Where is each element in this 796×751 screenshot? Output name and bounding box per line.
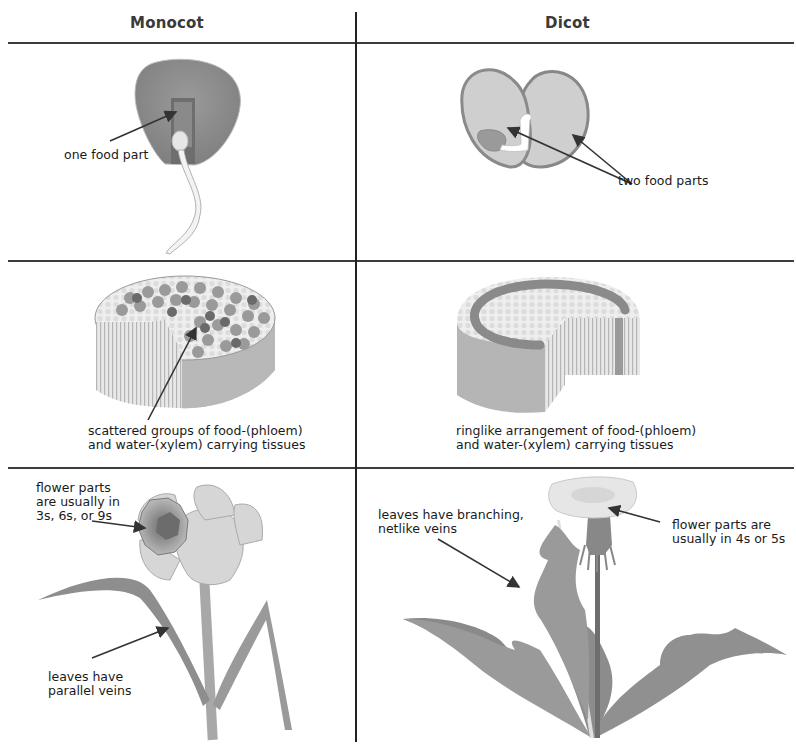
label-ringlike-tissues-line2: and water-(xylem) carrying tissues — [456, 438, 674, 452]
label-one-food-part: one food part — [64, 148, 148, 162]
monocot-stem-illustration — [95, 276, 275, 408]
illustrations — [0, 0, 796, 751]
monocot-seed-illustration — [135, 59, 240, 254]
arrow-parallel-veins — [92, 628, 168, 658]
label-scattered-tissues-line2: and water-(xylem) carrying tissues — [88, 438, 306, 452]
label-dicot-flower-line2: usually in 4s or 5s — [672, 532, 785, 546]
label-monocot-flower-line1: flower parts — [36, 481, 111, 495]
label-two-food-parts: two food parts — [618, 174, 709, 188]
label-dicot-flower-line1: flower parts are — [672, 518, 771, 532]
label-monocot-flower-line3: 3s, 6s, or 9s — [36, 509, 112, 523]
arrow-netlike-veins — [438, 539, 519, 587]
label-netlike-veins-line1: leaves have branching, — [378, 508, 524, 522]
label-monocot-flower-line2: are usually in — [36, 495, 120, 509]
label-netlike-veins-line2: netlike veins — [378, 522, 457, 536]
label-ringlike-tissues-line1: ringlike arrangement of food-(phloem) — [456, 424, 696, 438]
dicot-stem-illustration — [457, 277, 640, 413]
monocot-flower-illustration — [38, 485, 292, 740]
label-parallel-veins-line2: parallel veins — [48, 684, 131, 698]
dicot-seed-illustration — [462, 70, 588, 167]
label-parallel-veins-line1: leaves have — [48, 670, 123, 684]
label-scattered-tissues-line1: scattered groups of food-(phloem) — [88, 424, 303, 438]
